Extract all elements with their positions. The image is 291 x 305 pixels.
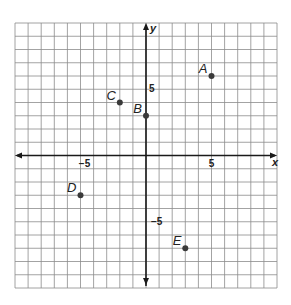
x-axis-label: x [271, 156, 279, 168]
y-axis-arrow-down-icon [143, 278, 149, 285]
y-tick-label: 5 [149, 83, 155, 94]
point-marker [117, 100, 123, 106]
point-marker [78, 192, 84, 198]
x-tick-label: 5 [209, 158, 215, 169]
x-axis-arrow-left-icon [15, 153, 22, 159]
coordinate-plane: x y −555−5 ABCDE [0, 0, 291, 305]
y-axis-arrow-up-icon [143, 23, 149, 30]
point-marker [143, 113, 149, 119]
point-label: D [67, 180, 76, 195]
point-marker [209, 73, 215, 79]
point-label: C [106, 88, 116, 103]
y-tick-label: −5 [151, 216, 163, 227]
point-label: E [173, 233, 182, 248]
point-marker [182, 245, 188, 251]
x-tick-label: −5 [79, 158, 91, 169]
point-label: B [133, 101, 142, 116]
y-axis-label: y [149, 22, 157, 34]
point-label: A [198, 61, 208, 76]
